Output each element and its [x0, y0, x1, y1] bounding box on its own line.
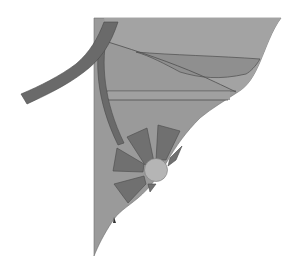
artwork-canvas — [0, 0, 301, 279]
wedge-6 — [148, 184, 156, 192]
sun-circle — [145, 159, 168, 182]
horizontal-band — [108, 92, 230, 101]
